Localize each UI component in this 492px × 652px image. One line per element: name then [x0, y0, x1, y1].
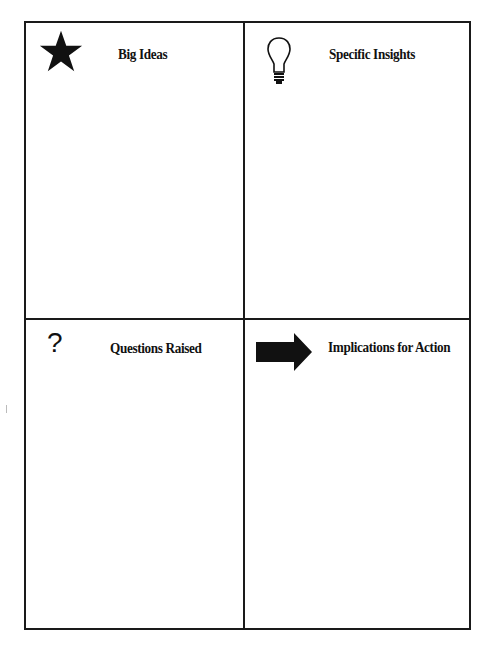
quadrant-questions-raised: ? Questions Raised	[26, 320, 243, 630]
star-icon	[39, 29, 83, 73]
arrow-right-icon	[256, 333, 312, 371]
scan-artifact	[6, 405, 7, 413]
quadrant-title: Big Ideas	[118, 46, 167, 63]
lightbulb-icon	[266, 36, 292, 86]
quadrant-implications-for-action: Implications for Action	[245, 320, 471, 630]
quadrant-title: Questions Raised	[110, 340, 202, 357]
quadrant-big-ideas: Big Ideas	[26, 23, 243, 318]
quadrant-title: Implications for Action	[328, 339, 450, 356]
quadrant-title: Specific Insights	[329, 46, 415, 63]
four-quadrant-organizer: Big Ideas Specific Insights ? Questions …	[24, 21, 471, 630]
question-mark-icon: ?	[47, 329, 63, 357]
quadrant-specific-insights: Specific Insights	[245, 23, 471, 318]
